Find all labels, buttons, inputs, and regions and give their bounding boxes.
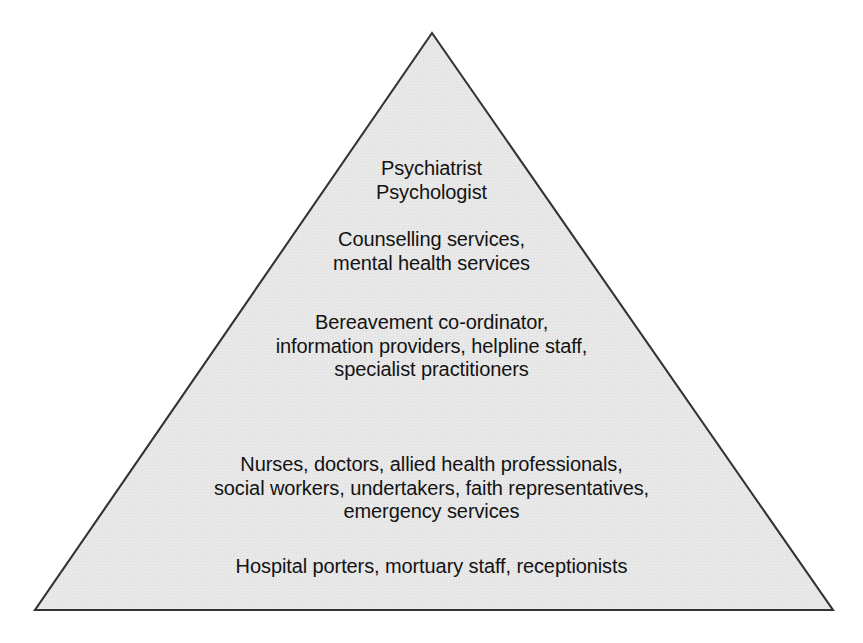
pyramid-tier-5: Hospital porters, mortuary staff, recept… [0, 555, 863, 579]
pyramid-tier-layer: Psychiatrist Psychologist Counselling se… [0, 0, 863, 643]
pyramid-tier-1: Psychiatrist Psychologist [0, 157, 863, 204]
pyramid-tier-4: Nurses, doctors, allied health professio… [0, 453, 863, 524]
pyramid-tier-2: Counselling services, mental health serv… [0, 228, 863, 275]
diagram-canvas: Psychiatrist Psychologist Counselling se… [0, 0, 863, 643]
pyramid-tier-3: Bereavement co-ordinator, information pr… [0, 311, 863, 382]
